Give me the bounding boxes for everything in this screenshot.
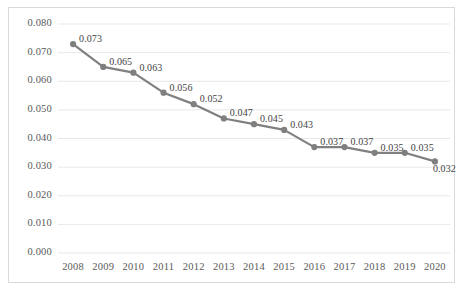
- x-axis-tick-label: 2016: [297, 261, 331, 272]
- data-point-marker: [221, 115, 227, 121]
- y-axis-tick-label: 0.030: [10, 160, 52, 171]
- data-point-marker: [100, 64, 106, 70]
- data-point-marker: [311, 144, 317, 150]
- x-axis-tick-label: 2008: [56, 261, 90, 272]
- data-point-marker: [130, 70, 136, 76]
- y-axis-tick-label: 0.040: [10, 132, 52, 143]
- data-point-marker: [160, 90, 166, 96]
- x-axis-tick-label: 2019: [388, 261, 422, 272]
- data-point-label: 0.035: [381, 142, 404, 153]
- x-axis-tick-label: 2012: [177, 261, 211, 272]
- y-axis-tick-label: 0.020: [10, 189, 52, 200]
- data-point-label: 0.032: [433, 163, 456, 174]
- y-axis-tick-label: 0.070: [10, 46, 52, 57]
- data-point-marker: [70, 41, 76, 47]
- x-axis-tick-label: 2009: [86, 261, 120, 272]
- y-axis-tick-label: 0.060: [10, 74, 52, 85]
- data-point-marker: [191, 101, 197, 107]
- data-point-label: 0.045: [260, 113, 283, 124]
- x-axis-tick-label: 2020: [418, 261, 452, 272]
- data-point-label: 0.037: [320, 136, 343, 147]
- x-axis-tick-label: 2015: [267, 261, 301, 272]
- data-point-label: 0.037: [350, 136, 373, 147]
- data-point-label: 0.065: [109, 56, 132, 67]
- y-axis-tick-label: 0.000: [10, 246, 52, 257]
- y-axis-tick-label: 0.050: [10, 103, 52, 114]
- x-axis-tick-label: 2011: [147, 261, 181, 272]
- y-axis-tick-label: 0.080: [10, 17, 52, 28]
- y-axis-tick-label: 0.010: [10, 217, 52, 228]
- data-point-label: 0.063: [139, 62, 162, 73]
- data-point-marker: [251, 121, 257, 127]
- data-point-label: 0.047: [230, 107, 253, 118]
- x-axis-tick-label: 2017: [327, 261, 361, 272]
- data-point-label: 0.073: [79, 33, 102, 44]
- data-point-label: 0.056: [170, 82, 193, 93]
- data-point-label: 0.035: [411, 142, 434, 153]
- data-point-marker: [281, 127, 287, 133]
- data-point-label: 0.043: [290, 119, 313, 130]
- x-axis-tick-label: 2014: [237, 261, 271, 272]
- data-point-marker: [372, 150, 378, 156]
- x-axis-tick-label: 2010: [116, 261, 150, 272]
- x-axis-tick-label: 2013: [207, 261, 241, 272]
- x-axis-tick-label: 2018: [358, 261, 392, 272]
- data-point-label: 0.052: [200, 93, 223, 104]
